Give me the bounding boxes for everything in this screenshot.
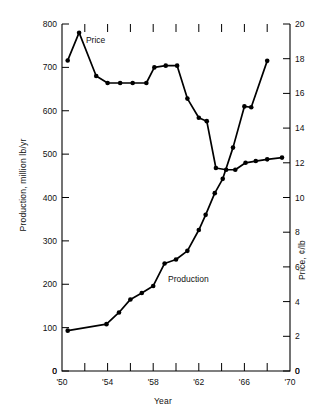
data-point-production bbox=[212, 191, 217, 196]
x-axis-tick-label: '62 bbox=[193, 377, 204, 387]
series-line-production bbox=[68, 61, 268, 331]
data-point-price bbox=[77, 30, 82, 35]
chart-figure: 0100200300400500600700800024681012141618… bbox=[0, 0, 326, 413]
data-point-price bbox=[280, 155, 285, 160]
data-point-price bbox=[254, 159, 259, 164]
y-axis-tick-label-left: 100 bbox=[43, 323, 57, 333]
data-point-production bbox=[220, 177, 225, 182]
x-axis-tick-label: '70 bbox=[284, 377, 295, 387]
x-axis-tick-label: '54 bbox=[102, 377, 113, 387]
y-axis-tick-label-left: 500 bbox=[43, 149, 57, 159]
data-point-production bbox=[174, 257, 179, 262]
data-point-price bbox=[130, 81, 135, 86]
data-point-price bbox=[163, 63, 168, 68]
y-axis-tick-label-left: 200 bbox=[43, 279, 57, 289]
y-axis-tick-label-left: 800 bbox=[43, 19, 57, 29]
data-point-production bbox=[151, 284, 156, 289]
data-point-price bbox=[105, 81, 110, 86]
y-axis-tick-label-right: 14 bbox=[295, 123, 305, 133]
data-point-price bbox=[197, 115, 202, 120]
data-point-production bbox=[185, 249, 190, 254]
y-axis-tick-label-left: 700 bbox=[43, 62, 57, 72]
data-point-price bbox=[214, 166, 219, 171]
y-axis-tick-label-right: 20 bbox=[295, 19, 305, 29]
series-annotation-production: Production bbox=[168, 274, 209, 284]
y-axis-tick-label-left: 600 bbox=[43, 106, 57, 116]
x-axis-tick-label: '66 bbox=[239, 377, 250, 387]
data-point-price bbox=[94, 74, 99, 79]
data-point-price bbox=[185, 96, 190, 101]
y-axis-tick-label-right: 18 bbox=[295, 54, 305, 64]
data-point-production bbox=[162, 261, 167, 266]
x-axis-title: Year bbox=[0, 396, 326, 406]
data-point-production bbox=[265, 59, 270, 64]
data-point-production bbox=[140, 291, 145, 296]
data-point-price bbox=[224, 167, 229, 172]
data-point-price bbox=[243, 161, 248, 166]
data-point-price bbox=[233, 167, 238, 172]
data-point-price bbox=[152, 65, 157, 70]
y-axis-tick-label-left: 400 bbox=[43, 193, 57, 203]
y-axis-title-right: Price, ¢/lb bbox=[297, 190, 307, 330]
data-point-production bbox=[197, 228, 202, 233]
data-point-price bbox=[175, 63, 180, 68]
y-axis-tick-label-right: 12 bbox=[295, 158, 305, 168]
data-point-price bbox=[204, 119, 209, 124]
y-axis-tick-label-right: 16 bbox=[295, 88, 305, 98]
x-axis-tick-label: '50 bbox=[56, 377, 67, 387]
data-point-price bbox=[65, 58, 70, 63]
x-axis-tick-label: '58 bbox=[148, 377, 159, 387]
y-axis-tick-label-left: 300 bbox=[43, 236, 57, 246]
y-axis-title-left: Production, million lb/yr bbox=[18, 115, 28, 255]
data-point-production bbox=[249, 105, 254, 110]
data-point-production bbox=[242, 104, 247, 109]
series-line-price bbox=[68, 33, 282, 170]
data-point-production bbox=[128, 297, 133, 302]
series-annotation-price: Price bbox=[86, 35, 106, 45]
data-point-production bbox=[65, 328, 70, 333]
data-point-price bbox=[265, 157, 270, 162]
chart-plot-area: 0100200300400500600700800024681012141618… bbox=[0, 0, 326, 413]
data-point-production bbox=[104, 322, 109, 327]
data-point-production bbox=[117, 310, 122, 315]
y-axis-tick-label-right: 2 bbox=[295, 331, 300, 341]
data-point-production bbox=[203, 213, 208, 218]
data-point-production bbox=[231, 145, 236, 150]
y-axis-zero-label-right: 0 bbox=[295, 366, 300, 376]
data-point-price bbox=[144, 81, 149, 86]
data-point-price bbox=[118, 81, 123, 86]
y-axis-zero-label-left: 0 bbox=[52, 366, 57, 376]
